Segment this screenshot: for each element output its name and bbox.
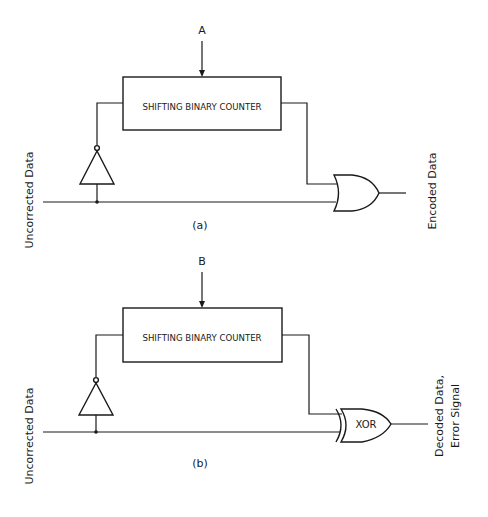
wire-counter-to-inverter-b: [96, 335, 123, 377]
caption-b: (b): [192, 457, 208, 470]
xor-gate-icon: XOR: [336, 409, 391, 442]
circuit-diagram: A SHIFTING BINARY COUNTER (a) Uncorrecte…: [0, 0, 488, 517]
input-label-b: Uncorrected Data: [23, 387, 36, 484]
or-gate-icon: [334, 175, 379, 211]
counter-block-label-b: SHIFTING BINARY COUNTER: [142, 333, 261, 343]
output-label-b-line2: Error Signal: [449, 384, 462, 448]
control-input-label-a: A: [198, 24, 206, 37]
counter-block-label-a: SHIFTING BINARY COUNTER: [142, 102, 261, 112]
output-label-a: Encoded Data: [426, 152, 439, 229]
caption-a: (a): [192, 219, 207, 232]
panel-b: B SHIFTING BINARY COUNTER XOR (b) Uncorr…: [23, 255, 462, 485]
wire-counter-to-gate-b: [282, 335, 342, 414]
control-input-label-b: B: [198, 255, 206, 268]
input-label-a: Uncorrected Data: [23, 151, 36, 248]
junction-dot-a: [95, 200, 99, 204]
inverter-gate-icon: [79, 378, 113, 415]
junction-dot-b: [94, 430, 98, 434]
inverter-gate-icon: [80, 146, 114, 184]
wire-counter-to-gate-a: [281, 103, 338, 184]
panel-a: A SHIFTING BINARY COUNTER (a) Uncorrecte…: [23, 24, 439, 249]
xor-gate-label: XOR: [355, 419, 376, 430]
output-label-b-line1: Decoded Data,: [433, 375, 446, 457]
arrow-icon: [199, 272, 205, 308]
wire-counter-to-inverter-a: [97, 103, 123, 145]
arrow-icon: [199, 41, 205, 77]
